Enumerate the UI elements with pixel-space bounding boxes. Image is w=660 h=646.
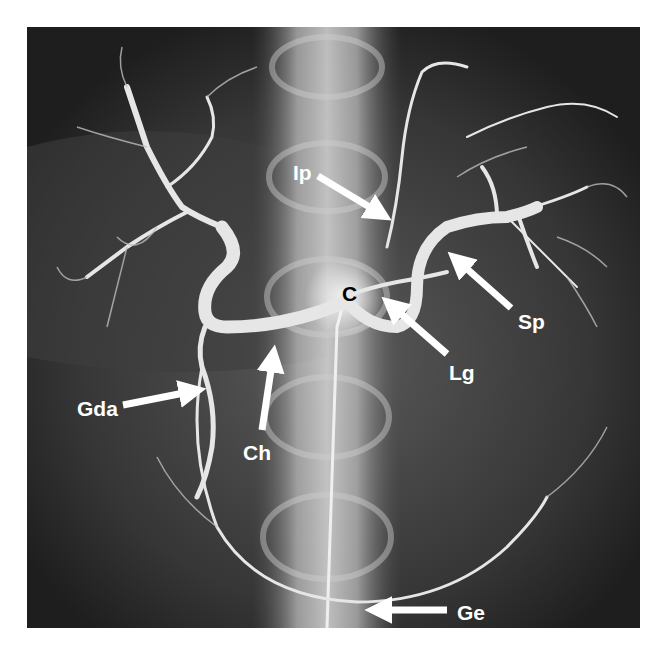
label-c: C xyxy=(342,283,357,304)
label-lg: Lg xyxy=(449,362,475,383)
label-gda: Gda xyxy=(77,398,118,419)
angiogram-image: Ip C Sp Lg Gda Ch Ge xyxy=(27,27,640,628)
label-ip: Ip xyxy=(293,162,312,183)
xray-background xyxy=(27,27,640,628)
label-sp: Sp xyxy=(518,311,545,332)
label-ch: Ch xyxy=(243,442,271,463)
label-ge: Ge xyxy=(457,602,485,623)
